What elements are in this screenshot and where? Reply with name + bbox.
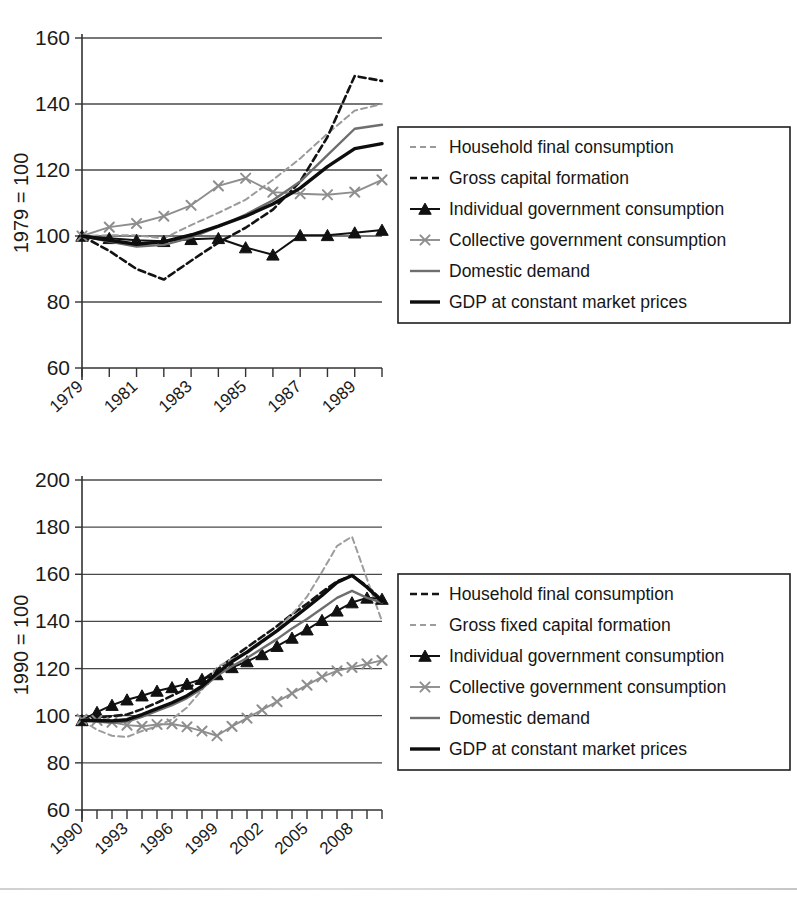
y-tick-label: 160 xyxy=(35,26,70,49)
marker-triangle xyxy=(331,605,343,616)
x-tick-label: 1987 xyxy=(264,377,305,416)
y-tick-label: 180 xyxy=(35,515,70,538)
x-tick-label: 1989 xyxy=(319,377,360,416)
page-scan-edge xyxy=(0,888,797,890)
x-tick-label: 1990 xyxy=(46,819,87,858)
legend-item[interactable]: Household final consumption xyxy=(410,584,674,604)
legend-item[interactable]: Individual government consumption xyxy=(410,199,724,219)
legend-item[interactable]: Household final consumption xyxy=(410,137,674,157)
marker-cross xyxy=(257,705,266,714)
x-tick-label: 1996 xyxy=(136,819,177,858)
legend-item-label: Household final consumption xyxy=(449,137,674,157)
chart-figure: 6080100120140160197919811983198519871989… xyxy=(0,0,797,906)
x-tick-label: 1979 xyxy=(46,377,87,416)
legend-item[interactable]: GDP at constant market prices xyxy=(410,739,687,759)
series-group xyxy=(76,537,388,741)
series-group xyxy=(76,76,388,280)
series-line-domestic_demand xyxy=(82,125,382,247)
y-tick-label: 100 xyxy=(35,224,70,247)
legend-item-label: Domestic demand xyxy=(449,261,590,281)
marker-cross xyxy=(272,697,281,706)
legend-item-label: Gross fixed capital formation xyxy=(449,615,671,635)
x-tick-label: 2002 xyxy=(226,819,267,858)
page-scan-margin xyxy=(0,893,797,906)
y-tick-label: 60 xyxy=(47,798,70,821)
series-domestic_demand xyxy=(82,125,382,247)
gridlines xyxy=(82,38,382,368)
series-line-gross_capital xyxy=(82,537,382,737)
x-tick-label: 1981 xyxy=(100,377,141,416)
series-gross_capital xyxy=(82,537,382,737)
x-tick-labels: 197919811983198519871989 xyxy=(46,368,382,416)
chart-panel-top: 6080100120140160197919811983198519871989… xyxy=(0,0,797,450)
y-tick-label: 160 xyxy=(35,562,70,585)
series-line-collective_gov xyxy=(82,178,382,236)
x-tick-label: 1999 xyxy=(181,819,222,858)
y-tick-label: 80 xyxy=(47,751,70,774)
legend-item-label: Collective government consumption xyxy=(449,230,726,250)
series-collective_gov xyxy=(77,174,386,241)
y-tick-labels: 6080100120140160180200 xyxy=(35,468,82,821)
legend-item-label: Domestic demand xyxy=(449,708,590,728)
series-line-gross_capital xyxy=(82,76,382,280)
y-tick-label: 200 xyxy=(35,468,70,491)
legend-item[interactable]: Gross fixed capital formation xyxy=(410,615,671,635)
marker-cross xyxy=(227,722,236,731)
legend-item-label: Household final consumption xyxy=(449,584,674,604)
legend-item[interactable]: Collective government consumption xyxy=(410,230,726,250)
marker-triangle xyxy=(286,632,298,643)
marker-triangle xyxy=(106,699,118,710)
x-tick-label: 2005 xyxy=(271,819,312,858)
marker-triangle xyxy=(301,624,313,635)
marker-triangle xyxy=(181,678,193,689)
legend-item-label: GDP at constant market prices xyxy=(449,739,687,759)
x-tick-label: 1993 xyxy=(91,819,132,858)
x-tick-labels: 1990199319961999200220052008 xyxy=(46,810,382,858)
legend-item[interactable]: Collective government consumption xyxy=(410,677,726,697)
y-tick-label: 80 xyxy=(47,290,70,313)
legend-item-label: Gross capital formation xyxy=(449,168,629,188)
legend-item-label: Collective government consumption xyxy=(449,677,726,697)
marker-cross xyxy=(302,680,311,689)
y-tick-label: 60 xyxy=(47,356,70,379)
marker-cross xyxy=(186,201,195,210)
marker-triangle xyxy=(136,690,148,701)
x-tick-label: 2008 xyxy=(316,819,357,858)
legend-item-label: Individual government consumption xyxy=(449,646,724,666)
marker-cross xyxy=(242,713,251,722)
x-tick-label: 1983 xyxy=(155,377,196,416)
marker-triangle xyxy=(316,614,328,625)
series-household xyxy=(82,104,382,238)
y-tick-label: 120 xyxy=(35,657,70,680)
x-tick-label: 1985 xyxy=(209,377,250,416)
y-tick-label: 120 xyxy=(35,158,70,181)
series-line-household xyxy=(82,104,382,238)
y-tick-label: 140 xyxy=(35,92,70,115)
y-axis-title: 1979 = 100 xyxy=(10,153,32,254)
y-tick-label: 140 xyxy=(35,609,70,632)
y-tick-label: 100 xyxy=(35,704,70,727)
legend-item-label: GDP at constant market prices xyxy=(449,292,687,312)
legend-item-label: Individual government consumption xyxy=(449,199,724,219)
line-chart-top: 6080100120140160197919811983198519871989… xyxy=(0,0,797,450)
legend: Household final consumptionGross capital… xyxy=(398,127,790,323)
marker-triangle xyxy=(239,242,251,253)
marker-cross xyxy=(287,689,296,698)
line-chart-bottom: 6080100120140160180200199019931996199920… xyxy=(0,450,797,890)
legend: Household final consumptionGross fixed c… xyxy=(398,574,790,770)
marker-cross xyxy=(212,731,221,740)
legend-item[interactable]: Individual government consumption xyxy=(410,646,724,666)
series-gross_capital xyxy=(82,76,382,280)
gridlines xyxy=(82,480,382,810)
marker-triangle xyxy=(346,597,358,608)
marker-cross xyxy=(377,175,386,184)
legend-item[interactable]: GDP at constant market prices xyxy=(410,292,687,312)
y-tick-labels: 6080100120140160 xyxy=(35,26,82,379)
y-axis-title: 1990 = 100 xyxy=(10,595,32,696)
marker-cross xyxy=(317,672,326,681)
chart-panel-bottom: 6080100120140160180200199019931996199920… xyxy=(0,450,797,890)
